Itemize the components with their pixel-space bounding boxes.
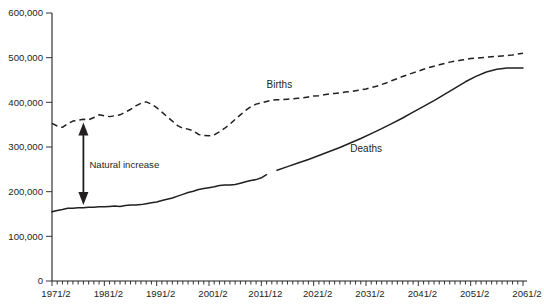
x-axis-group: 1971/21981/21991/22001/22011/122021/2203… xyxy=(41,281,541,299)
y-tick-label: 0 xyxy=(38,275,43,286)
y-tick-label: 400,000 xyxy=(8,97,43,108)
natural-increase-arrow-head-top xyxy=(78,122,88,135)
natural-increase-label: Natural increase xyxy=(89,159,159,170)
x-tick-label: 2051/2 xyxy=(460,288,489,299)
line-chart: 0100,000200,000300,000400,000500,000600,… xyxy=(0,0,544,307)
y-axis-ticks xyxy=(46,13,52,281)
y-tick-label: 500,000 xyxy=(8,52,43,63)
series-line-deaths-projected xyxy=(277,68,523,170)
natural-increase-arrow-head-bottom xyxy=(78,192,88,205)
series-labels-group: Births Deaths xyxy=(267,79,382,154)
x-tick-label: 1971/2 xyxy=(41,288,70,299)
x-tick-label: 2031/2 xyxy=(355,288,384,299)
y-tick-label: 200,000 xyxy=(8,186,43,197)
x-axis-tick-labels: 1971/21981/21991/22001/22011/122021/2203… xyxy=(41,288,541,299)
x-tick-label: 1981/2 xyxy=(94,288,123,299)
y-axis-group: 0100,000200,000300,000400,000500,000600,… xyxy=(8,7,52,286)
y-tick-label: 100,000 xyxy=(8,231,43,242)
y-tick-label: 600,000 xyxy=(8,7,43,18)
y-tick-label: 300,000 xyxy=(8,141,43,152)
x-axis-minor-ticks xyxy=(52,281,523,286)
x-tick-label: 2011/12 xyxy=(248,288,282,299)
series-label-deaths: Deaths xyxy=(350,143,382,154)
series-label-births: Births xyxy=(267,79,293,90)
x-tick-label: 1991/2 xyxy=(146,288,175,299)
x-tick-label: 2041/2 xyxy=(408,288,437,299)
x-tick-label: 2001/2 xyxy=(198,288,227,299)
x-tick-label: 2061/2 xyxy=(512,288,541,299)
natural-increase-annotation: Natural increase xyxy=(78,122,159,205)
series-line-births xyxy=(52,53,523,136)
chart-container: 0100,000200,000300,000400,000500,000600,… xyxy=(0,0,544,307)
x-tick-label: 2021/2 xyxy=(303,288,332,299)
series-group xyxy=(52,53,523,212)
y-axis-tick-labels: 0100,000200,000300,000400,000500,000600,… xyxy=(8,7,43,286)
